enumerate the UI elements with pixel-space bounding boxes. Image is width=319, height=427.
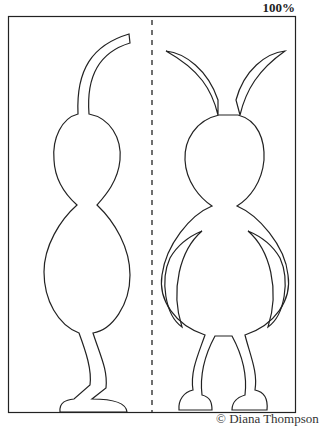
copyright-credit: © Diana Thompson [216,411,319,427]
right-arm [248,231,285,327]
front-body [161,115,288,410]
front-view-figure [161,51,288,410]
right-antenna [236,51,285,115]
left-antenna [166,51,218,115]
side-view-figure [44,34,130,412]
left-arm [165,231,202,327]
